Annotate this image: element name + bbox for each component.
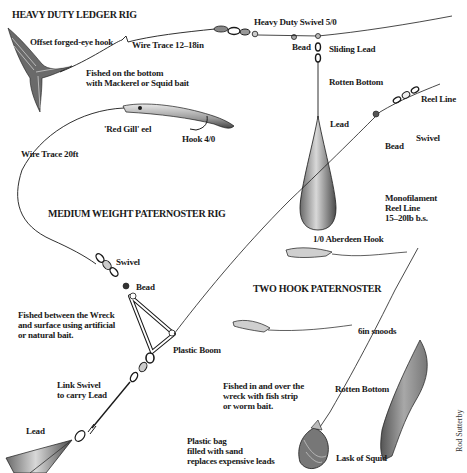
label-reel-line-swivel: Swivel	[416, 133, 440, 143]
label-plastic-bag: Plastic bag filled with sand replaces ex…	[187, 436, 275, 466]
label-wire-trace-20ft: Wire Trace 20ft	[21, 149, 78, 159]
paternoster-bead-icon	[123, 283, 129, 289]
reel-line-bead-icon	[373, 111, 379, 117]
heavy-duty-swivel-icon	[214, 26, 258, 37]
plastic-boom-icon	[130, 293, 175, 352]
paternoster-lead-weight-icon	[6, 440, 72, 473]
reel-line-swivel-icon	[392, 86, 419, 104]
label-bead: Bead	[292, 42, 311, 52]
label-monofilament-reel-line: Monofilament Reel Line 15–20lb b.s.	[385, 193, 437, 223]
label-two-hook-rotten-bottom: Rotten Bottom	[335, 384, 389, 394]
label-two-hook-usage: Fished in and over the wreck with fish s…	[223, 381, 304, 411]
label-paternoster-bead: Bead	[136, 282, 155, 292]
label-offset-hook: Offset forged-eye hook	[30, 37, 113, 47]
label-paternoster-lead: Lead	[26, 426, 45, 436]
label-snoods: 6in snoods	[358, 326, 396, 336]
title-two-hook-paternoster: TWO HOOK PATERNOSTER	[253, 283, 381, 294]
artist-credit: Rod Sutterby	[455, 410, 464, 452]
fishing-rigs-diagram: HEAVY DUTY LEDGER RIG MEDIUM WEIGHT PATE…	[0, 0, 467, 473]
title-heavy-duty-ledger-rig: HEAVY DUTY LEDGER RIG	[12, 9, 137, 20]
label-lask-of-squid: Lask of Squid	[336, 453, 387, 463]
label-ledger-usage: Fished on the bottom with Mackerel or Sq…	[86, 68, 189, 88]
label-rotten-bottom: Rotten Bottom	[329, 77, 383, 87]
upper-snood-hook-icon	[286, 248, 407, 258]
label-aberdeen-hook: 1/0 Aberdeen Hook	[313, 234, 384, 244]
label-wire-trace-short: Wire Trace 12–18in	[132, 40, 204, 50]
label-hook-4-0: Hook 4/0	[182, 134, 215, 144]
label-swivel: Swivel	[116, 257, 140, 267]
sand-bag-weight-icon	[299, 420, 329, 469]
label-red-gill-eel: 'Red Gill' eel	[104, 124, 151, 134]
label-link-swivel: Link Swivel to carry Lead	[57, 380, 107, 400]
title-medium-weight-paternoster-rig: MEDIUM WEIGHT PATERNOSTER RIG	[48, 208, 226, 219]
label-heavy-duty-swivel: Heavy Duty Swivel 5/0	[254, 17, 337, 27]
label-sliding-lead: Sliding Lead	[329, 44, 375, 54]
sliding-lead-link-icon	[316, 34, 321, 119]
squid-strip-icon	[381, 340, 428, 460]
label-lead: Lead	[330, 119, 349, 129]
label-plastic-boom: Plastic Boom	[173, 345, 221, 355]
wire-trace-line	[60, 29, 215, 72]
lower-snood-hook-icon	[233, 320, 352, 332]
label-paternoster-usage: Fished between the Wreck and surface usi…	[18, 310, 115, 340]
label-reel-line: Reel Line	[421, 94, 456, 104]
label-reel-line-bead: Bead	[385, 141, 404, 151]
